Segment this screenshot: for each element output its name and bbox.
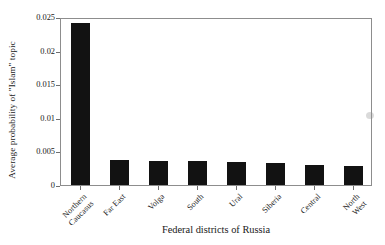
y-tick-label: 0.01 — [0, 113, 58, 125]
bar — [188, 161, 208, 185]
y-tick-label: 0.005 — [0, 146, 58, 158]
x-tick-label: NorthernCaucasus — [43, 192, 95, 244]
x-tick-mark — [158, 186, 159, 190]
y-tick-label: 0.015 — [0, 79, 58, 91]
x-tick-mark — [119, 186, 120, 190]
plot-area — [60, 18, 372, 186]
y-tick-label: 0 — [0, 180, 58, 192]
x-tick-mark — [80, 186, 81, 190]
bar — [71, 23, 91, 185]
bar — [110, 160, 130, 185]
bar — [344, 166, 364, 185]
x-tick-mark — [197, 186, 198, 190]
bar — [266, 163, 286, 185]
y-tick-label: 0.02 — [0, 46, 58, 58]
y-axis-title: Average probability of "Islam" topic — [4, 15, 20, 205]
x-tick-mark — [353, 186, 354, 190]
bar — [227, 162, 247, 185]
x-tick-mark — [275, 186, 276, 190]
x-tick-mark — [314, 186, 315, 190]
bar — [149, 161, 169, 185]
y-tick-mark — [56, 186, 60, 187]
chart-figure: Average probability of "Islam" topic 00.… — [0, 0, 385, 245]
x-axis-title: Federal districts of Russia — [60, 224, 372, 235]
x-tick-label: NorthWest — [316, 192, 368, 244]
bar — [305, 165, 325, 185]
x-tick-mark — [236, 186, 237, 190]
y-tick-label: 0.025 — [0, 12, 58, 24]
scan-artifact — [366, 112, 374, 119]
